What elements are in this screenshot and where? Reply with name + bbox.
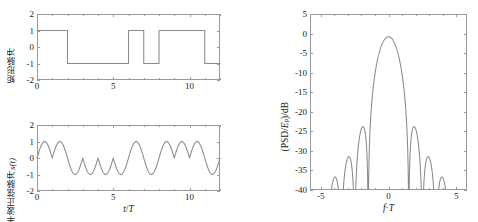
- xtick-minor: [375, 188, 376, 190]
- ytick-major-right: [217, 31, 220, 32]
- xtick-minor-top: [220, 125, 221, 127]
- rect-pulse-curve-svg: [37, 14, 220, 80]
- ytick-major-right: [464, 53, 467, 54]
- xtick-minor-top: [98, 125, 99, 127]
- xtick-major-top: [190, 125, 191, 128]
- xtick-minor: [98, 189, 99, 191]
- ytick-major-right: [217, 175, 220, 176]
- xtick-minor: [220, 189, 221, 191]
- xtick-minor-top: [144, 14, 145, 16]
- xtick-minor-top: [220, 14, 221, 16]
- ytick-label: 1: [30, 26, 35, 35]
- ytick-major: [37, 64, 40, 65]
- xtick-minor: [334, 188, 335, 190]
- psd-curve-svg: [310, 14, 467, 190]
- ytick-label: 0: [303, 29, 308, 38]
- ytick-major-right: [217, 125, 220, 126]
- ytick-major-right: [464, 92, 467, 93]
- panel-half-sine-pulse: 0510-2-1012 半波正弦脉冲s(t) t/T: [37, 125, 220, 191]
- ytick-major-right: [217, 158, 220, 159]
- xtick-minor-top: [129, 125, 130, 127]
- ytick-major: [310, 131, 313, 132]
- xtick-minor-top: [205, 125, 206, 127]
- xtick-major: [113, 188, 114, 191]
- ylabel-rect-pulse: 矩形脉冲: [6, 47, 18, 83]
- xtick-minor-top: [52, 125, 53, 127]
- ytick-major: [37, 31, 40, 32]
- xtick-minor: [205, 189, 206, 191]
- ytick-major: [37, 14, 40, 15]
- xtick-label: 5: [111, 82, 116, 91]
- xtick-minor-top: [68, 125, 69, 127]
- ytick-label: 5: [303, 10, 308, 19]
- xlabel-half-sine-pulse: t/T: [123, 204, 134, 214]
- half-sine-curve-svg: [37, 125, 220, 191]
- xtick-minor: [220, 78, 221, 80]
- ytick-label: -30: [295, 146, 307, 155]
- xtick-minor: [129, 189, 130, 191]
- xtick-minor: [144, 189, 145, 191]
- xtick-major-top: [113, 14, 114, 17]
- xtick-minor-top: [174, 125, 175, 127]
- ytick-major: [310, 112, 313, 113]
- xtick-minor-top: [144, 125, 145, 127]
- xtick-minor-top: [375, 14, 376, 16]
- ytick-label: -5: [300, 49, 308, 58]
- ytick-label: -1: [27, 170, 35, 179]
- xtick-minor: [174, 189, 175, 191]
- ylabel-half-sine-pulse: 半波正弦脉冲s(t): [6, 158, 18, 222]
- xtick-label: 0: [35, 82, 40, 91]
- xtick-major: [456, 187, 457, 190]
- xtick-minor-top: [402, 14, 403, 16]
- ytick-label: -35: [295, 166, 307, 175]
- ytick-label: 2: [30, 10, 35, 19]
- xtick-label: 10: [185, 193, 194, 202]
- xtick-label: -5: [317, 192, 325, 201]
- ytick-major-right: [464, 131, 467, 132]
- xtick-major-top: [113, 125, 114, 128]
- half-sine-curve: [37, 142, 220, 175]
- ytick-major-right: [217, 14, 220, 15]
- xtick-minor: [83, 78, 84, 80]
- xtick-major-top: [389, 14, 390, 17]
- ytick-major-right: [217, 47, 220, 48]
- xtick-minor-top: [348, 14, 349, 16]
- ytick-label: -40: [295, 186, 307, 195]
- xtick-minor: [98, 78, 99, 80]
- ytick-major-right: [217, 191, 220, 192]
- xtick-minor: [361, 188, 362, 190]
- ytick-major: [310, 170, 313, 171]
- ytick-major: [37, 80, 40, 81]
- xtick-minor: [159, 189, 160, 191]
- xtick-minor: [429, 188, 430, 190]
- ytick-major: [310, 53, 313, 54]
- ytick-label: -25: [295, 127, 307, 136]
- xtick-minor: [174, 78, 175, 80]
- ytick-major: [37, 47, 40, 48]
- ytick-major: [310, 14, 313, 15]
- ytick-label: 2: [30, 121, 35, 130]
- ytick-label: -1: [27, 59, 35, 68]
- ytick-major-right: [464, 14, 467, 15]
- ytick-label: -2: [27, 187, 35, 196]
- xtick-major: [113, 77, 114, 80]
- xlabel-psd: f·T: [383, 203, 394, 213]
- panel-rect-pulse: 0510-2-1012 矩形脉冲: [37, 14, 220, 80]
- ytick-major-right: [464, 151, 467, 152]
- ytick-major: [310, 34, 313, 35]
- xtick-minor: [68, 78, 69, 80]
- xtick-minor: [416, 188, 417, 190]
- xtick-minor-top: [429, 14, 430, 16]
- xtick-minor-top: [52, 14, 53, 16]
- ylabel-psd: (PSD/Ep)/dB: [280, 102, 290, 151]
- xtick-minor: [144, 78, 145, 80]
- xtick-label: 5: [111, 193, 116, 202]
- xtick-minor: [83, 189, 84, 191]
- xtick-minor: [68, 189, 69, 191]
- xtick-major-top: [190, 14, 191, 17]
- ytick-major-right: [217, 80, 220, 81]
- xtick-minor-top: [205, 14, 206, 16]
- xtick-major-top: [321, 14, 322, 17]
- xtick-minor: [205, 78, 206, 80]
- xtick-minor: [129, 78, 130, 80]
